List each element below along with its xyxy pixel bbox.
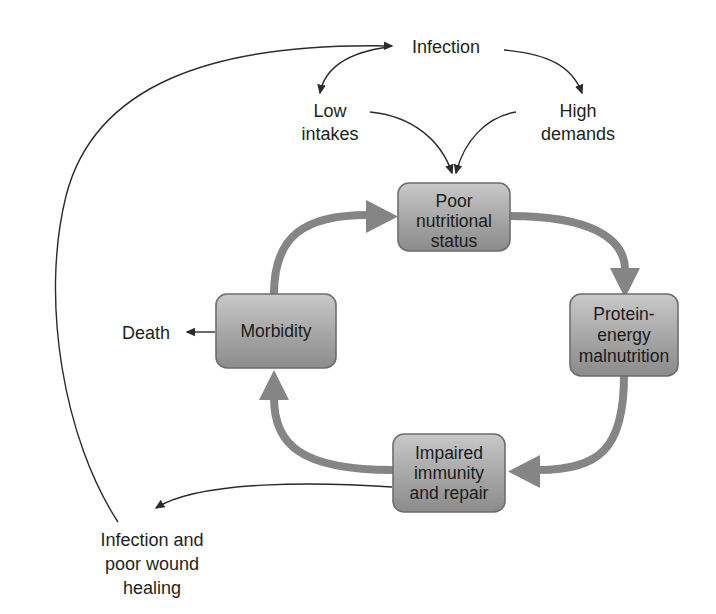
node-label-line: Impaired [415, 443, 483, 463]
label-text: High [559, 101, 596, 121]
arrow-low-intakes-to-poor-nutritional-status [370, 112, 452, 173]
cycle-arrow-protein-energy-to-impaired-immunity [508, 376, 624, 488]
label-text: Death [122, 323, 170, 343]
label-text: Infection and [100, 530, 203, 550]
label-text: Low [313, 101, 347, 121]
label-text: intakes [301, 124, 358, 144]
node-label-line: energy [597, 325, 651, 345]
node-label-line: status [431, 231, 478, 251]
label-text: demands [541, 124, 615, 144]
arrow-high-demands-to-poor-nutritional-status [456, 112, 516, 173]
node-label-line: Poor [436, 191, 473, 211]
arrow-infection-to-low-intakes [320, 47, 388, 93]
label-high-demands: High demands [541, 101, 615, 144]
cycle-arrow-impaired-immunity-to-morbidity [259, 370, 393, 470]
diagram-canvas: Poor nutritional status Protein- energy … [0, 0, 716, 614]
node-poor-nutritional-status[interactable]: Poor nutritional status [398, 183, 510, 251]
cycle-arrow-morbidity-to-poor-nutritional-status [274, 200, 398, 294]
node-impaired-immunity-and-repair[interactable]: Impaired immunity and repair [393, 434, 505, 512]
node-morbidity[interactable]: Morbidity [216, 294, 336, 368]
diagram-svg: Poor nutritional status Protein- energy … [0, 0, 716, 614]
node-label-line: malnutrition [579, 346, 669, 366]
node-label-line: immunity [414, 463, 484, 483]
node-protein-energy-malnutrition[interactable]: Protein- energy malnutrition [570, 294, 678, 376]
cycle-arrow-poor-nutritional-status-to-protein-energy [510, 216, 640, 298]
label-death: Death [122, 323, 170, 343]
node-label-line: nutritional [416, 211, 492, 231]
node-label-line: Protein- [593, 304, 654, 324]
label-text: Infection [412, 37, 480, 57]
node-label-line: and repair [410, 483, 489, 503]
label-text: poor wound [105, 554, 199, 574]
label-infection-and-poor-wound-healing: Infection and poor wound healing [100, 530, 203, 598]
arrow-impaired-immunity-to-wound-healing [156, 484, 392, 508]
node-label-line: Morbidity [241, 321, 312, 341]
label-infection: Infection [412, 37, 480, 57]
label-low-intakes: Low intakes [301, 101, 358, 144]
arrow-infection-to-high-demands [504, 50, 582, 93]
label-text: healing [123, 578, 181, 598]
